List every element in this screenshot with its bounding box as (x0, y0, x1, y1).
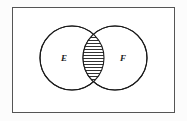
set-f-label: F (119, 53, 126, 63)
venn-diagram-canvas: E F (0, 0, 187, 121)
set-e-label: E (60, 53, 67, 63)
venn-diagram-figure: E F (0, 0, 187, 121)
